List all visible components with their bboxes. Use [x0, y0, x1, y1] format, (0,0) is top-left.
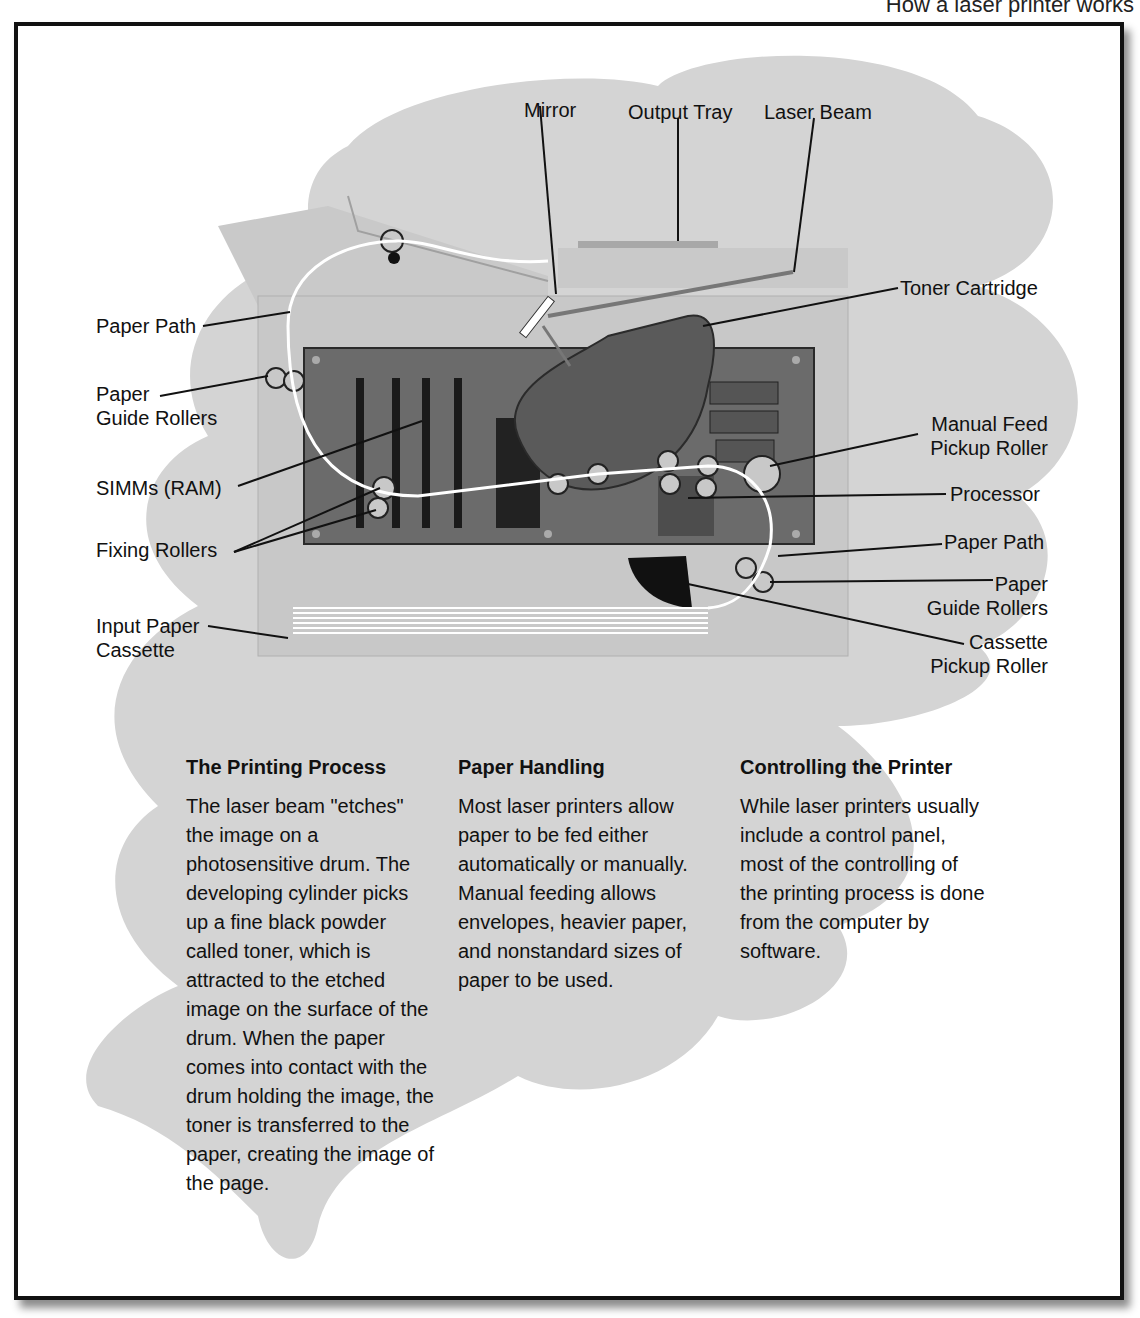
page-caption: How a laser printer works — [886, 0, 1134, 18]
section-printing-process: The Printing Process The laser beam "etc… — [186, 754, 436, 1198]
section-heading: The Printing Process — [186, 754, 436, 780]
label-cassette-pickup-roller: Cassette Pickup Roller — [930, 630, 1048, 678]
section-body: While laser printers usually include a c… — [740, 792, 990, 966]
section-heading: Controlling the Printer — [740, 754, 990, 780]
section-controlling-printer: Controlling the Printer While laser prin… — [740, 754, 990, 966]
label-manual-feed-pickup-roller: Manual Feed Pickup Roller — [930, 412, 1048, 460]
section-body: Most laser printers allow paper to be fe… — [458, 792, 708, 995]
label-paper-guide-rollers-left: Paper Guide Rollers — [96, 382, 217, 430]
printer-upper-body — [558, 248, 848, 288]
label-fixing-rollers: Fixing Rollers — [96, 538, 217, 562]
label-simms: SIMMs (RAM) — [96, 476, 222, 500]
section-heading: Paper Handling — [458, 754, 708, 780]
section-body: The laser beam "etches" the image on a p… — [186, 792, 436, 1198]
label-mirror: Mirror — [524, 98, 576, 122]
label-processor: Processor — [950, 482, 1040, 506]
label-laser-beam: Laser Beam — [764, 100, 872, 124]
label-output-tray: Output Tray — [628, 100, 733, 124]
section-paper-handling: Paper Handling Most laser printers allow… — [458, 754, 708, 995]
memory-chips — [710, 382, 778, 462]
label-paper-path-right: Paper Path — [944, 530, 1044, 554]
input-roller-dot — [388, 252, 400, 264]
diagram-frame: Mirror Output Tray Laser Beam Paper Path… — [14, 22, 1124, 1300]
label-paper-guide-rollers-right: Paper Guide Rollers — [927, 572, 1048, 620]
label-input-paper-cassette: Input Paper Cassette — [96, 614, 199, 662]
label-toner-cartridge: Toner Cartridge — [900, 276, 1038, 300]
label-paper-path-left: Paper Path — [96, 314, 196, 338]
